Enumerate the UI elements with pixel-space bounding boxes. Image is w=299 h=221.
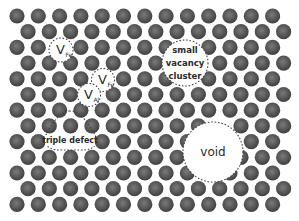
atom bbox=[212, 87, 227, 102]
atom bbox=[106, 56, 121, 71]
atom bbox=[148, 24, 163, 39]
atom bbox=[201, 197, 216, 212]
atom bbox=[116, 197, 131, 212]
atom bbox=[137, 103, 152, 118]
atom bbox=[20, 150, 35, 165]
atom bbox=[127, 24, 142, 39]
atom bbox=[42, 118, 57, 133]
atom bbox=[233, 56, 248, 71]
atom bbox=[9, 103, 24, 118]
atom bbox=[159, 103, 174, 118]
atom bbox=[42, 150, 57, 165]
atom bbox=[20, 181, 35, 196]
atom bbox=[244, 103, 259, 118]
atom bbox=[276, 181, 291, 196]
atom bbox=[84, 118, 99, 133]
atom bbox=[265, 103, 280, 118]
atom bbox=[137, 165, 152, 180]
atom bbox=[63, 181, 78, 196]
atom bbox=[9, 8, 24, 23]
atom bbox=[127, 87, 142, 102]
atom bbox=[95, 197, 110, 212]
atom bbox=[20, 118, 35, 133]
atom bbox=[73, 197, 88, 212]
atom bbox=[201, 103, 216, 118]
atom bbox=[84, 150, 99, 165]
atom bbox=[170, 150, 185, 165]
atom bbox=[170, 118, 185, 133]
atom bbox=[170, 181, 185, 196]
atom bbox=[52, 8, 67, 23]
atom bbox=[233, 181, 248, 196]
atom bbox=[212, 181, 227, 196]
atom bbox=[95, 40, 110, 55]
atom bbox=[265, 71, 280, 86]
atom bbox=[73, 8, 88, 23]
atom bbox=[63, 118, 78, 133]
atom bbox=[180, 8, 195, 23]
atom bbox=[255, 118, 270, 133]
atom bbox=[106, 118, 121, 133]
atom bbox=[276, 56, 291, 71]
atom bbox=[148, 87, 163, 102]
atom bbox=[265, 197, 280, 212]
atom bbox=[9, 197, 24, 212]
defect-diagram: VFeVFeVAlsmallvacancyclustervoidtriple d… bbox=[0, 0, 299, 221]
atom bbox=[52, 165, 67, 180]
atom bbox=[244, 71, 259, 86]
atom bbox=[127, 181, 142, 196]
atom bbox=[180, 197, 195, 212]
atom bbox=[137, 8, 152, 23]
atom bbox=[159, 8, 174, 23]
atom bbox=[265, 8, 280, 23]
atom bbox=[95, 8, 110, 23]
atom bbox=[63, 24, 78, 39]
atom bbox=[222, 40, 237, 55]
atom bbox=[276, 150, 291, 165]
atom bbox=[9, 71, 24, 86]
atom bbox=[233, 24, 248, 39]
atom bbox=[42, 181, 57, 196]
atom bbox=[106, 181, 121, 196]
atom bbox=[84, 24, 99, 39]
atom bbox=[20, 87, 35, 102]
atom bbox=[222, 197, 237, 212]
atom bbox=[148, 181, 163, 196]
atom bbox=[222, 8, 237, 23]
atom bbox=[116, 40, 131, 55]
atom bbox=[265, 165, 280, 180]
atom bbox=[63, 150, 78, 165]
atom bbox=[84, 56, 99, 71]
atom bbox=[212, 24, 227, 39]
small-vacancy-cluster-label: vacancy bbox=[166, 58, 205, 68]
atom bbox=[255, 87, 270, 102]
atom bbox=[31, 71, 46, 86]
atom bbox=[116, 71, 131, 86]
lattice-canvas: VFeVFeVAlsmallvacancyclustervoidtriple d… bbox=[0, 0, 299, 221]
atom bbox=[159, 197, 174, 212]
atom bbox=[73, 40, 88, 55]
atom bbox=[244, 197, 259, 212]
atom bbox=[244, 165, 259, 180]
atom bbox=[244, 40, 259, 55]
atom bbox=[255, 24, 270, 39]
atom bbox=[52, 71, 67, 86]
atom bbox=[95, 103, 110, 118]
atom bbox=[255, 150, 270, 165]
atom bbox=[31, 8, 46, 23]
atom bbox=[191, 87, 206, 102]
atom bbox=[137, 197, 152, 212]
atom bbox=[212, 56, 227, 71]
atom bbox=[9, 134, 24, 149]
atom bbox=[116, 103, 131, 118]
small-vacancy-cluster-label: cluster bbox=[168, 71, 202, 81]
atom bbox=[191, 181, 206, 196]
atom bbox=[148, 118, 163, 133]
atom bbox=[31, 197, 46, 212]
atom bbox=[159, 165, 174, 180]
atom bbox=[137, 71, 152, 86]
atom-lattice bbox=[9, 8, 291, 212]
atom bbox=[148, 56, 163, 71]
atom bbox=[233, 87, 248, 102]
atom bbox=[244, 8, 259, 23]
